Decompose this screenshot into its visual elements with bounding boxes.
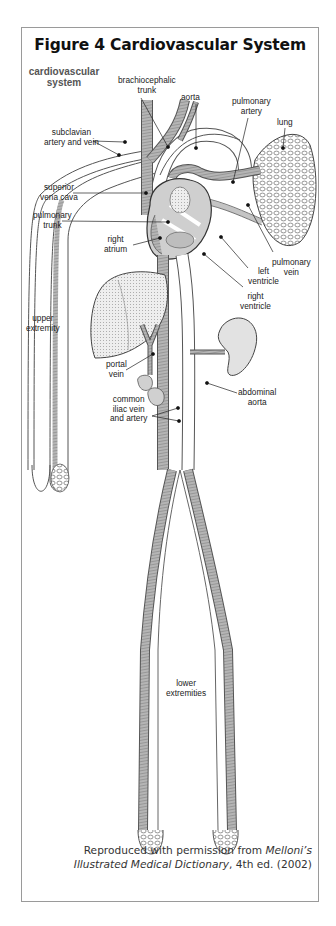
credit-edition: , 4th ed. (2002) xyxy=(229,858,312,870)
label-line: aorta xyxy=(238,398,276,408)
kidney xyxy=(218,318,256,375)
label-line: trunk xyxy=(33,221,72,231)
label-line: vena cava xyxy=(40,193,78,203)
label-line: artery xyxy=(232,107,271,117)
label-pulmonary-trunk: pulmonary trunk xyxy=(33,211,72,230)
label-line: extremity xyxy=(26,324,60,334)
label-pulmonary-artery: pulmonary artery xyxy=(232,97,271,116)
label-left-ventricle: left ventricle xyxy=(248,267,279,286)
label-right-ventricle: right ventricle xyxy=(240,292,271,311)
label-line: ventricle xyxy=(248,277,279,287)
label-superior-vena-cava: superior vena cava xyxy=(40,183,78,202)
label-brachiocephalic-trunk: brachiocephalic trunk xyxy=(118,76,176,95)
label-abdominal-aorta: abdominal aorta xyxy=(238,388,276,407)
heart xyxy=(147,179,211,259)
label-upper-extremity: upper extremity xyxy=(26,314,60,333)
label-line: artery and vein xyxy=(44,138,99,148)
credit-prefix: Reproduced with permission from xyxy=(84,844,266,856)
credit-line-1: Reproduced with permission from Melloni’… xyxy=(74,844,312,858)
lung xyxy=(253,134,316,245)
label-line: atrium xyxy=(104,245,127,255)
label-portal-vein: portal vein xyxy=(106,360,127,379)
label-subclavian: subclavian artery and vein xyxy=(44,128,99,147)
figure-title: Figure 4 Cardiovascular System xyxy=(21,36,319,54)
credit-text: Reproduced with permission from Melloni’… xyxy=(74,844,312,871)
label-lower-extremities: lower extremities xyxy=(166,679,206,698)
label-line: trunk xyxy=(118,86,176,96)
credit-line-2: Illustrated Medical Dictionary, 4th ed. … xyxy=(74,858,312,872)
label-line: and artery xyxy=(110,414,147,424)
label-lung: lung xyxy=(277,118,293,128)
credit-source-italic: Melloni’s xyxy=(265,844,312,856)
section-label: cardiovascular system xyxy=(28,66,100,88)
credit-title-italic: Illustrated Medical Dictionary xyxy=(74,858,229,870)
label-line: ventricle xyxy=(240,302,271,312)
label-aorta: aorta xyxy=(181,93,200,103)
label-common-iliac: common iliac vein and artery xyxy=(110,395,147,424)
lower-extremity-vessels xyxy=(138,470,238,854)
label-line: extremities xyxy=(166,689,206,699)
liver xyxy=(91,272,168,358)
label-right-atrium: right atrium xyxy=(104,235,127,254)
label-line: vein xyxy=(106,370,127,380)
